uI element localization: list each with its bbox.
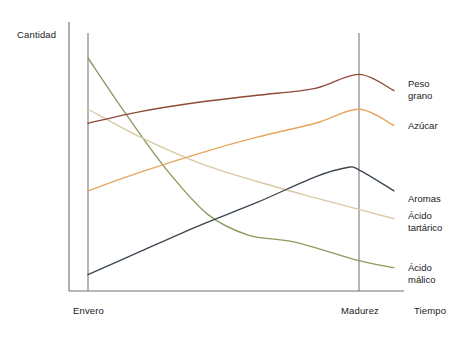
y-axis-label: Cantidad bbox=[17, 29, 56, 41]
series-line-acido-malico bbox=[88, 58, 394, 268]
series-label-acido-tartarico: Ácido tartárico bbox=[408, 210, 442, 233]
series-label-azucar: Azúcar bbox=[408, 120, 438, 132]
x-tick-label-madurez: Madurez bbox=[341, 305, 379, 317]
series-label-peso-grano: Peso grano bbox=[408, 78, 432, 101]
chart-plot-area bbox=[0, 0, 470, 337]
grape-ripening-chart: Cantidad Tiempo Envero Madurez Peso gran… bbox=[0, 0, 470, 337]
x-axis-label: Tiempo bbox=[414, 305, 446, 317]
series-line-azucar bbox=[88, 109, 394, 191]
x-tick-label-envero: Envero bbox=[73, 305, 104, 317]
series-label-aromas: Aromas bbox=[408, 193, 441, 205]
series-line-aromas bbox=[88, 167, 394, 275]
series-line-peso-grano bbox=[88, 74, 394, 123]
series-label-acido-malico: Ácido málico bbox=[408, 262, 435, 285]
